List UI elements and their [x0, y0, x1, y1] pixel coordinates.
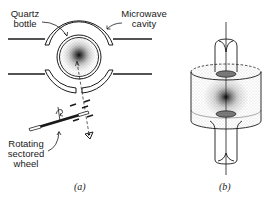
sectored-wheel	[29, 100, 93, 131]
panel-a	[8, 21, 152, 151]
label-quartz-bottle: Quartz bottle	[8, 9, 42, 29]
diagram-svg	[0, 0, 269, 201]
panel-b	[190, 22, 262, 175]
waveguide-right	[113, 39, 152, 74]
label-microwave-cavity: Microwave cavity	[120, 9, 168, 29]
label-quartz-bottle-line2: bottle	[8, 19, 42, 29]
label-rotating-sectored-wheel: Rotating sectored wheel	[4, 139, 48, 169]
label-rotating-wheel-line3: wheel	[4, 159, 48, 169]
caption-a: (a)	[74, 181, 86, 192]
figure: Quartz bottle Microwave cavity Rotating …	[0, 0, 269, 201]
caption-b: (b)	[219, 181, 231, 192]
cavity-cylinder	[190, 62, 262, 132]
label-microwave-cavity-line2: cavity	[120, 19, 168, 29]
leader-rotating-wheel	[48, 132, 61, 152]
waveguide-left	[8, 39, 45, 74]
eye-icon	[85, 132, 93, 139]
